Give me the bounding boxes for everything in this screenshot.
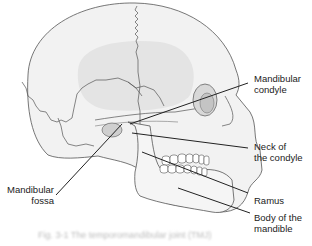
skull-illustration	[0, 0, 312, 246]
label-line: fossa	[2, 195, 54, 206]
label-line: Body of the	[254, 212, 302, 223]
label-mandibular-condyle: Mandibular condyle	[254, 73, 301, 95]
label-line: Mandibular	[254, 73, 301, 84]
label-line: Ramus	[254, 195, 284, 206]
label-neck-of-condyle: Neck of the condyle	[254, 141, 303, 163]
label-line: Neck of	[254, 141, 303, 152]
label-line: the condyle	[254, 152, 303, 163]
label-ramus: Ramus	[254, 195, 284, 206]
label-line: condyle	[254, 84, 301, 95]
figure-caption: Fig. 3-1 The temporomandibular joint (TM…	[38, 230, 278, 240]
label-mandibular-fossa: Mandibular fossa	[2, 184, 54, 206]
label-line: Mandibular	[2, 184, 54, 195]
